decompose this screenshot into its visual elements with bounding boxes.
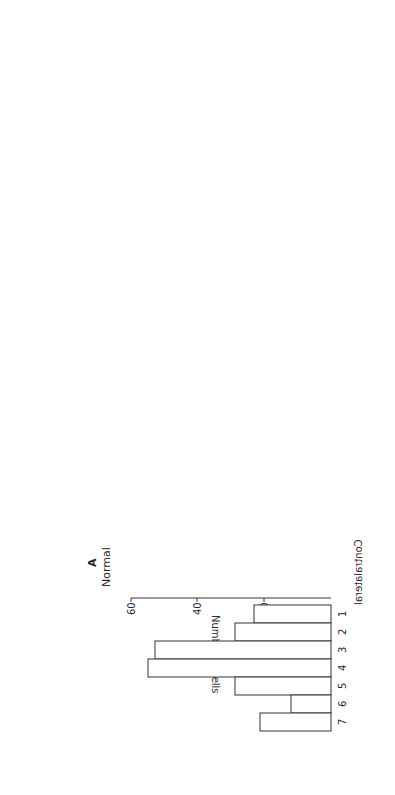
panel-a-letter: A xyxy=(86,558,99,567)
figure-stage: A Normal 60 40 20 Number of cells 1 2 3 … xyxy=(0,0,395,795)
bar-a-1 xyxy=(254,605,331,623)
panel-a-bars xyxy=(148,605,331,731)
svg-text:4: 4 xyxy=(337,665,348,671)
bar-a-5 xyxy=(235,677,331,695)
ocular-dominance-figure: A Normal 60 40 20 Number of cells 1 2 3 … xyxy=(0,0,395,795)
svg-text:3: 3 xyxy=(337,647,348,653)
panel-a-tick-60: 60 xyxy=(126,602,137,615)
panel-a-contralateral-label: Contralateral xyxy=(353,539,364,605)
svg-text:6: 6 xyxy=(337,701,348,707)
bar-a-6 xyxy=(291,695,331,713)
bar-a-2 xyxy=(235,623,331,641)
svg-text:7: 7 xyxy=(337,719,348,725)
bar-a-7 xyxy=(260,713,331,731)
panel-a-cat-labels: 1 2 3 4 5 6 7 xyxy=(337,611,348,725)
svg-text:5: 5 xyxy=(337,683,348,689)
svg-text:2: 2 xyxy=(337,629,348,635)
panel-a: A Normal 60 40 20 Number of cells 1 2 3 … xyxy=(86,539,364,731)
bar-a-4 xyxy=(148,659,331,677)
panel-a-tick-40: 40 xyxy=(192,602,203,615)
bar-a-3 xyxy=(155,641,331,659)
panel-a-title: Normal xyxy=(100,547,113,587)
svg-text:1: 1 xyxy=(337,611,348,617)
